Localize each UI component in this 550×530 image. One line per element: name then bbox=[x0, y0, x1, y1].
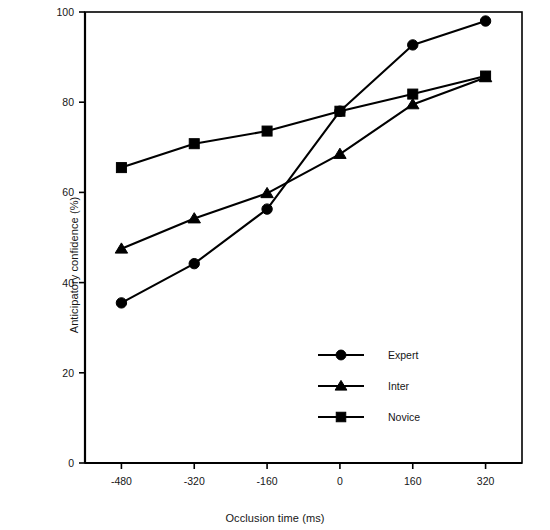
x-tick-label: 160 bbox=[404, 475, 422, 487]
legend-label: Expert bbox=[388, 349, 418, 361]
y-axis-label: Anticipatory confidence (%) bbox=[68, 197, 80, 334]
marker-triangle bbox=[334, 148, 346, 158]
line-chart-plot: 020406080100-480-320-1600160320 ExpertIn… bbox=[0, 0, 550, 530]
marker-square bbox=[116, 163, 126, 173]
marker-square bbox=[335, 106, 345, 116]
series-line bbox=[121, 76, 485, 168]
marker-circle bbox=[189, 258, 199, 268]
marker-square bbox=[189, 139, 199, 149]
legend-label: Novice bbox=[388, 411, 420, 423]
x-tick-label: -480 bbox=[111, 475, 132, 487]
x-tick-label: -160 bbox=[257, 475, 278, 487]
marker-circle bbox=[116, 298, 126, 308]
marker-circle bbox=[480, 16, 490, 26]
x-tick-label: 320 bbox=[477, 475, 495, 487]
marker-circle bbox=[336, 350, 346, 360]
y-tick-label: 20 bbox=[62, 367, 74, 379]
marker-square bbox=[481, 71, 491, 81]
y-tick-label: 100 bbox=[56, 6, 74, 18]
legend-layer: ExpertInterNovice bbox=[318, 349, 420, 423]
series-layer bbox=[115, 16, 492, 308]
marker-square bbox=[336, 412, 346, 422]
legend-entry-inter[interactable]: Inter bbox=[318, 380, 410, 392]
legend-label: Inter bbox=[388, 380, 410, 392]
marker-circle bbox=[408, 40, 418, 50]
series-novice bbox=[116, 71, 490, 173]
x-axis-label: Occlusion time (ms) bbox=[0, 512, 550, 524]
y-tick-label: 80 bbox=[62, 96, 74, 108]
marker-square bbox=[262, 126, 272, 136]
x-tick-label: 0 bbox=[337, 475, 343, 487]
series-line bbox=[121, 77, 485, 248]
legend-entry-expert[interactable]: Expert bbox=[318, 349, 418, 361]
marker-circle bbox=[262, 204, 272, 214]
series-expert bbox=[116, 16, 491, 308]
chart-figure: Anticipatory confidence (%) Occlusion ti… bbox=[0, 0, 550, 530]
legend-entry-novice[interactable]: Novice bbox=[318, 411, 420, 423]
series-inter bbox=[115, 72, 492, 254]
y-tick-label: 0 bbox=[68, 457, 74, 469]
series-line bbox=[121, 21, 485, 303]
marker-square bbox=[408, 89, 418, 99]
x-tick-label: -320 bbox=[184, 475, 205, 487]
marker-triangle bbox=[261, 187, 273, 197]
